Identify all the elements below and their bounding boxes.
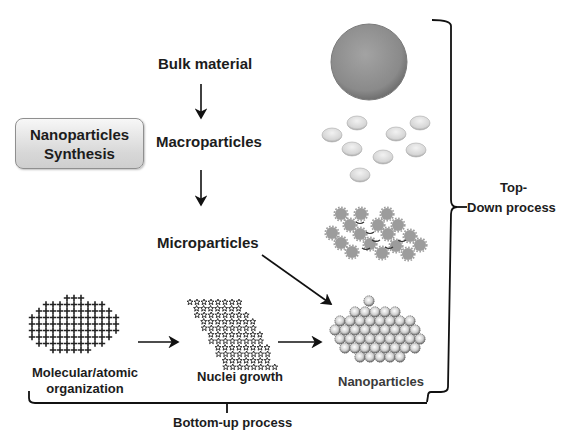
label-nanoparticles: Nanoparticles <box>338 374 424 389</box>
label-top-down-line1: Top- <box>500 180 527 195</box>
label-nuclei-growth: Nuclei growth <box>197 369 283 384</box>
label-molecular-line2: organization <box>30 381 140 397</box>
title-line2: Synthesis <box>44 144 115 163</box>
label-bottom-up: Bottom-up process <box>173 415 292 430</box>
nuclei-star-cluster-icon <box>187 299 278 370</box>
atomic-cross-grid-icon <box>29 295 119 353</box>
label-molecular-line1: Molecular/atomic <box>30 365 140 381</box>
label-molecular-organization: Molecular/atomic organization <box>30 365 140 397</box>
label-bulk-material: Bulk material <box>158 55 252 72</box>
label-macroparticles: Macroparticles <box>156 133 262 150</box>
microparticle-lattice-icon <box>325 207 427 261</box>
title-line1: Nanoparticles <box>30 125 129 144</box>
bulk-sphere-icon <box>331 24 407 100</box>
top-down-bracket <box>427 20 457 402</box>
nanoparticle-cluster-icon <box>330 296 425 362</box>
label-top-down-line2: Down process <box>467 200 556 215</box>
title-box: Nanoparticles Synthesis <box>15 118 144 169</box>
macroparticle-cluster-icon <box>322 116 430 182</box>
arrow-micro-to-nano <box>262 255 331 304</box>
label-microparticles: Microparticles <box>157 234 259 251</box>
